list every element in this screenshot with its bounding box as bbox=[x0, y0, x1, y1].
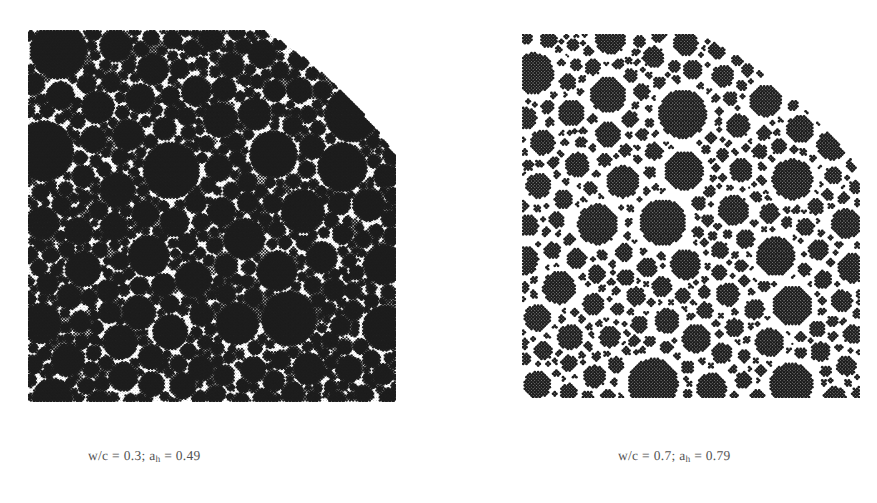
caption-right-prefix: w/c = 0.7; a bbox=[618, 448, 685, 463]
microstructure-panel-left bbox=[28, 30, 396, 402]
microstructure-canvas-left bbox=[28, 30, 396, 402]
microstructure-panel-right bbox=[522, 34, 860, 398]
caption-right-suffix: = 0.79 bbox=[691, 448, 731, 463]
figure-root: w/c = 0.3; ah = 0.49 w/c = 0.7; ah = 0.7… bbox=[0, 0, 877, 503]
caption-left: w/c = 0.3; ah = 0.49 bbox=[88, 448, 201, 465]
caption-left-prefix: w/c = 0.3; a bbox=[88, 448, 155, 463]
caption-left-suffix: = 0.49 bbox=[161, 448, 201, 463]
caption-right: w/c = 0.7; ah = 0.79 bbox=[618, 448, 731, 465]
microstructure-canvas-right bbox=[522, 34, 860, 398]
